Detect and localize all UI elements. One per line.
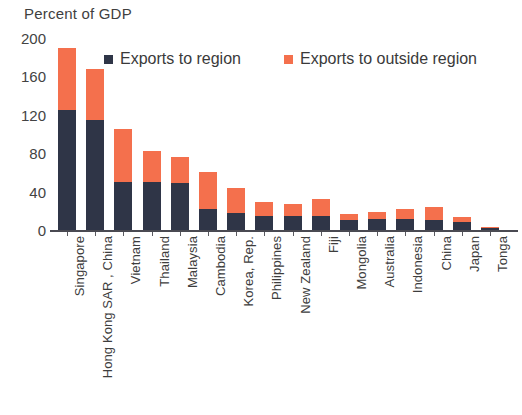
x-axis-label-china: China	[439, 236, 454, 270]
bar-segment-outside-region	[58, 48, 76, 110]
x-axis-tick	[264, 232, 265, 236]
legend-swatch-region	[104, 55, 113, 64]
x-axis-label-vietnam: Vietnam	[128, 236, 143, 284]
x-axis-tick	[321, 232, 322, 236]
bar-australia[interactable]	[368, 212, 386, 230]
x-axis-label-malaysia: Malaysia	[185, 236, 200, 288]
bar-segment-to-region	[199, 209, 217, 230]
x-axis-tick	[462, 232, 463, 236]
bar-segment-to-region	[114, 182, 132, 230]
x-axis-label-philippines: Philippines	[269, 236, 284, 300]
bar-malaysia[interactable]	[171, 157, 189, 230]
bar-korea-rep[interactable]	[227, 188, 245, 230]
x-axis-tick	[123, 232, 124, 236]
x-axis-label-hong-kong-sar-china: Hong Kong SAR , China	[100, 236, 115, 378]
bar-segment-outside-region	[86, 69, 104, 120]
bar-segment-to-region	[58, 110, 76, 230]
x-axis-tick	[180, 232, 181, 236]
bar-segment-to-region	[171, 183, 189, 230]
bar-vietnam[interactable]	[114, 129, 132, 230]
x-axis-tick	[67, 232, 68, 236]
bar-segment-to-region	[368, 219, 386, 230]
bar-new-zealand[interactable]	[284, 204, 302, 230]
y-axis-tick-label: 160	[2, 68, 46, 85]
x-axis-label-indonesia: Indonesia	[410, 236, 425, 293]
bar-chart: Percent of GDP 04080120160200 SingaporeH…	[0, 0, 522, 415]
y-axis-tick-label: 200	[2, 30, 46, 47]
x-axis-tick	[236, 232, 237, 236]
x-axis-line	[50, 230, 518, 232]
bar-segment-outside-region	[227, 188, 245, 213]
x-axis-tick	[208, 232, 209, 236]
x-axis-tick	[293, 232, 294, 236]
x-axis-label-cambodia: Cambodia	[213, 236, 228, 296]
bar-segment-outside-region	[368, 212, 386, 220]
bar-indonesia[interactable]	[396, 209, 414, 230]
x-axis-tick	[377, 232, 378, 236]
bar-japan[interactable]	[453, 217, 471, 230]
legend-label-region: Exports to region	[120, 50, 241, 68]
x-axis-label-fiji: Fiji	[326, 236, 341, 253]
bar-cambodia[interactable]	[199, 172, 217, 230]
bar-segment-outside-region	[396, 209, 414, 220]
bar-segment-to-region	[453, 222, 471, 230]
bar-fiji[interactable]	[312, 199, 330, 230]
bar-segment-outside-region	[312, 199, 330, 215]
x-axis-label-australia: Australia	[382, 236, 397, 287]
bar-segment-to-region	[255, 216, 273, 230]
x-axis-label-japan: Japan	[467, 236, 482, 272]
x-axis-tick	[95, 232, 96, 236]
legend-swatch-outside	[284, 55, 293, 64]
x-axis-tick	[405, 232, 406, 236]
x-axis-tick	[490, 232, 491, 236]
x-axis-tick	[349, 232, 350, 236]
bar-segment-to-region	[312, 216, 330, 230]
bar-segment-to-region	[425, 220, 443, 230]
bar-segment-to-region	[86, 120, 104, 230]
bar-segment-to-region	[227, 213, 245, 230]
x-axis-label-new-zealand: New Zealand	[298, 236, 313, 314]
bar-mongolia[interactable]	[340, 214, 358, 230]
y-axis-tick-label: 0	[2, 222, 46, 239]
x-axis-tick	[434, 232, 435, 236]
bar-segment-to-region	[340, 220, 358, 230]
legend-item-exports-to-region: Exports to region	[104, 50, 241, 68]
bar-hong-kong-sar-china[interactable]	[86, 69, 104, 230]
x-axis-label-tonga: Tonga	[495, 236, 510, 272]
bar-segment-outside-region	[255, 202, 273, 215]
x-axis-label-singapore: Singapore	[72, 236, 87, 296]
y-axis-tick-label: 80	[2, 145, 46, 162]
x-axis-tick	[152, 232, 153, 236]
bar-thailand[interactable]	[143, 151, 161, 230]
x-axis-label-mongolia: Mongolia	[354, 236, 369, 290]
legend-item-exports-to-outside-region: Exports to outside region	[284, 50, 477, 68]
bar-segment-to-region	[396, 219, 414, 230]
bar-segment-outside-region	[425, 207, 443, 220]
bar-philippines[interactable]	[255, 202, 273, 230]
bar-segment-outside-region	[284, 204, 302, 216]
y-axis-tick-label: 120	[2, 106, 46, 123]
bar-segment-outside-region	[143, 151, 161, 182]
bar-segment-outside-region	[171, 157, 189, 183]
bar-segment-outside-region	[114, 129, 132, 182]
bar-segment-to-region	[284, 216, 302, 230]
legend-label-outside: Exports to outside region	[300, 50, 477, 68]
y-axis-title: Percent of GDP	[24, 5, 132, 22]
x-axis-label-korea-rep: Korea, Rep.	[241, 236, 256, 306]
bar-segment-outside-region	[199, 172, 217, 208]
bar-segment-to-region	[143, 182, 161, 230]
x-axis-label-thailand: Thailand	[157, 236, 172, 287]
bar-singapore[interactable]	[58, 48, 76, 230]
y-axis-tick-label: 40	[2, 183, 46, 200]
bar-china[interactable]	[425, 207, 443, 230]
bar-segment-outside-region	[340, 214, 358, 221]
